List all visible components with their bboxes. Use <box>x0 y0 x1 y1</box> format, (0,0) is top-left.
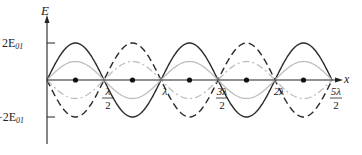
x-axis-label: x <box>343 72 350 86</box>
x-tick-label: 5λ2 <box>330 85 342 111</box>
x-tick-label: λ <box>162 85 168 97</box>
y-tick-label-bottom: −2E01 <box>0 110 24 125</box>
x-tick-label: 2λ <box>274 85 285 97</box>
y-tick-label-top: 2E01 <box>2 36 23 51</box>
antinode-dot <box>244 77 249 82</box>
svg-text:2: 2 <box>333 99 339 111</box>
y-axis-label: E <box>40 3 49 18</box>
svg-text:λ: λ <box>105 85 111 97</box>
antinode-dot <box>301 77 306 82</box>
svg-text:2λ: 2λ <box>274 85 285 97</box>
svg-text:2: 2 <box>219 99 225 111</box>
standing-wave-diagram: E x 2E01 −2E01 λ2λ3λ22λ5λ2 <box>0 0 362 155</box>
x-tick-label: 3λ2 <box>216 85 228 111</box>
antinode-dot <box>130 77 135 82</box>
svg-text:2: 2 <box>105 99 111 111</box>
x-axis-arrow-icon <box>335 78 343 83</box>
svg-text:3λ: 3λ <box>216 85 228 97</box>
svg-text:λ: λ <box>162 85 168 97</box>
antinode-dot <box>73 77 78 82</box>
svg-text:5λ: 5λ <box>331 85 342 97</box>
antinode-dot <box>187 77 192 82</box>
